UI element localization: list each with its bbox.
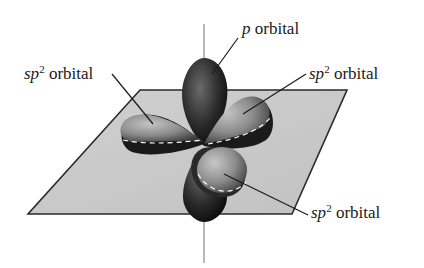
label-sp2-right-symbol: sp: [309, 64, 324, 83]
label-sp2-bottom-symbol: sp: [311, 203, 326, 222]
label-sp2-left: sp2 orbital: [24, 65, 93, 82]
label-p-orbital-text: orbital: [251, 19, 300, 38]
label-p-orbital: p orbital: [242, 20, 299, 37]
label-sp2-right-text: orbital: [330, 64, 379, 83]
label-sp2-left-symbol: sp: [24, 64, 39, 83]
label-sp2-bottom-text: orbital: [332, 203, 381, 222]
sp2-orbital-diagram: [0, 0, 424, 268]
label-sp2-right: sp2 orbital: [309, 65, 378, 82]
label-sp2-bottom: sp2 orbital: [311, 204, 380, 221]
label-p-orbital-symbol: p: [242, 19, 251, 38]
label-sp2-left-text: orbital: [45, 64, 94, 83]
leader-line-p: [212, 38, 238, 74]
